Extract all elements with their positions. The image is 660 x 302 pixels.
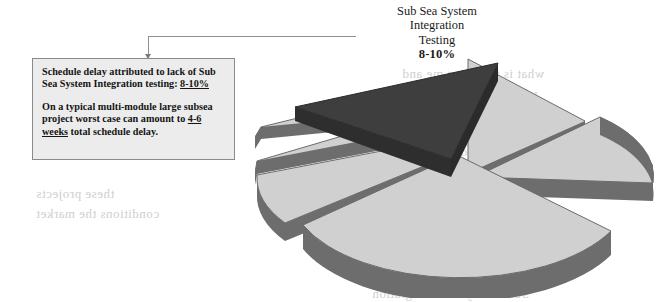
callout-paragraph-2: On a typical multi-module large subsea p… xyxy=(42,101,226,138)
callout-spacer xyxy=(42,91,226,101)
chart-title-line-3: Testing xyxy=(352,33,522,47)
chart-title-line-1: Sub Sea System xyxy=(352,4,522,18)
callout-paragraph-1-underline: 8-10% xyxy=(180,78,209,89)
callout-textbox: Schedule delay attributed to lack of Sub… xyxy=(32,58,235,160)
callout-paragraph-1: Schedule delay attributed to lack of Sub… xyxy=(42,66,226,91)
chart-title: Sub Sea System Integration Testing 8-10% xyxy=(352,4,522,62)
ghost-text: these projects xyxy=(36,186,114,202)
ghost-text: conditions the market xyxy=(36,206,159,222)
chart-title-percent: 8-10% xyxy=(352,47,522,61)
chart-title-line-2: Integration xyxy=(352,18,522,32)
callout-paragraph-2-tail: total schedule delay. xyxy=(68,126,158,137)
leader-line-vertical xyxy=(148,36,149,56)
leader-line-horizontal xyxy=(148,36,356,37)
pie-chart xyxy=(255,55,660,298)
